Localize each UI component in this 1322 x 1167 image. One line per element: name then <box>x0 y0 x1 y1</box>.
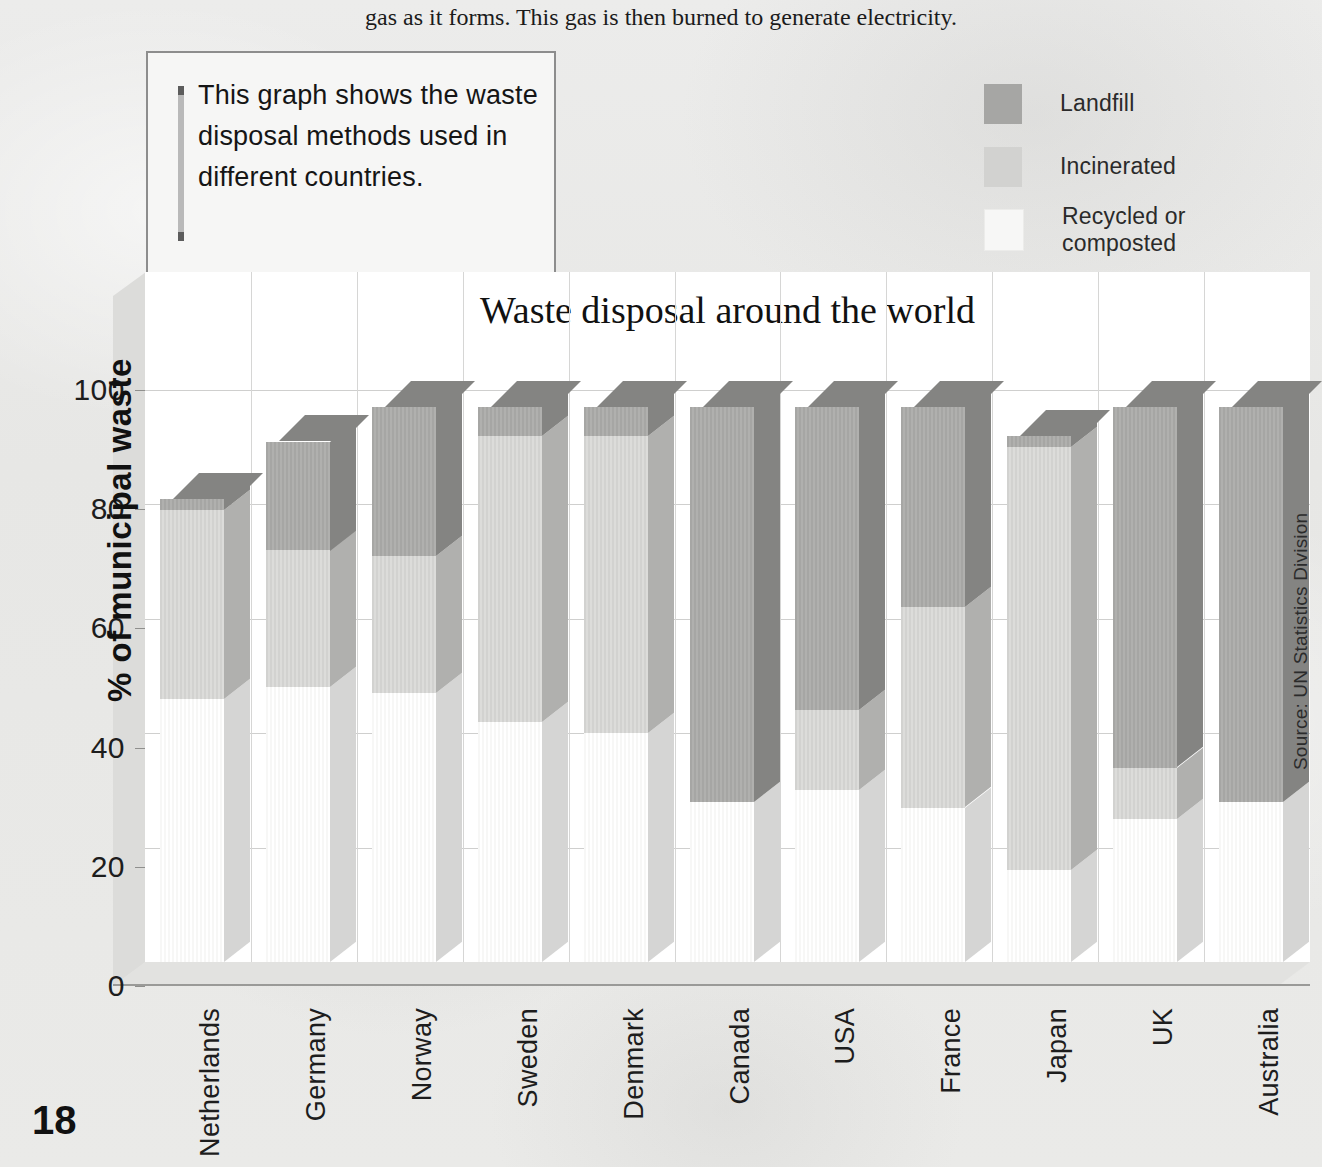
bar-segment-front <box>1113 819 1177 962</box>
bar-column <box>478 381 542 962</box>
x-axis-label: Canada <box>725 1008 756 1104</box>
bar-segment-front <box>478 722 542 962</box>
bar-segment-front <box>795 710 859 790</box>
legend-item-label: Landfill <box>1060 90 1135 117</box>
bar-segment-side <box>436 536 462 694</box>
category-separator <box>675 272 676 962</box>
bar-segment-front <box>901 407 965 607</box>
note-accent-bar <box>178 86 184 241</box>
bar-segment-side <box>965 787 991 962</box>
bar-segment <box>901 607 965 807</box>
callout-note-box: This graph shows the waste disposal meth… <box>146 51 556 276</box>
bar-segment-front <box>266 687 330 962</box>
bar-segment-side <box>648 713 674 962</box>
bar-segment-front <box>1113 768 1177 819</box>
legend-swatch-icon <box>984 209 1024 251</box>
bar-segment-front <box>372 407 436 556</box>
bar-segment-side <box>224 679 250 962</box>
bar-segment <box>690 407 754 802</box>
bar-segment-side <box>1071 427 1097 871</box>
y-axis-tick-label: 0 <box>108 969 125 1003</box>
category-separator <box>886 272 887 962</box>
bar-segment-side <box>648 415 674 733</box>
bar-segment <box>795 710 859 790</box>
legend-swatch-icon <box>984 84 1022 124</box>
bar-segment-front <box>584 733 648 962</box>
bar-segment <box>901 407 965 607</box>
source-note: Source: UN Statistics Division <box>1290 513 1312 770</box>
bar-segment-side <box>542 415 568 721</box>
category-separator <box>357 272 358 962</box>
bar-segment <box>160 699 224 962</box>
bar-segment <box>1007 436 1071 447</box>
category-separator <box>992 272 993 962</box>
bar-segment-front <box>690 407 754 802</box>
bar-segment <box>160 499 224 510</box>
category-separator <box>780 272 781 962</box>
bar-segment-front <box>372 693 436 962</box>
bar-segment-side <box>859 770 885 962</box>
bar-segment <box>266 442 330 551</box>
category-separator <box>1204 272 1205 962</box>
bar-segment <box>795 790 859 962</box>
y-axis-tick <box>135 748 145 749</box>
y-axis-title: % of municipal waste <box>101 358 139 702</box>
bar-segment <box>1219 802 1283 962</box>
x-axis-label: Denmark <box>619 1008 650 1120</box>
legend-item: Landfill <box>984 72 1304 135</box>
bar-segment <box>266 550 330 687</box>
bar-segment <box>795 407 859 710</box>
bar-segment-front <box>901 808 965 962</box>
bar-segment-front <box>160 699 224 962</box>
y-axis-tick <box>135 986 145 987</box>
note-text: This graph shows the waste disposal meth… <box>198 75 540 198</box>
x-axis-label: France <box>936 1008 967 1094</box>
bar-segment <box>1007 447 1071 870</box>
x-axis-label: Norway <box>407 1008 438 1101</box>
bar-segment <box>1113 407 1177 767</box>
legend-item-label: Recycled or composted <box>1062 203 1304 257</box>
bar-segment-front <box>160 510 224 699</box>
chart-legend: LandfillIncineratedRecycled or composted <box>984 72 1304 261</box>
bar-segment-front <box>372 556 436 693</box>
bar-column <box>1113 381 1177 962</box>
bar-column <box>795 381 859 962</box>
bar-segment-side <box>436 387 462 556</box>
bar-column <box>1219 381 1283 962</box>
bar-column <box>372 381 436 962</box>
plot-floor <box>113 962 1310 986</box>
bar-column <box>266 415 330 962</box>
bar-column <box>901 381 965 962</box>
bar-segment-front <box>584 407 648 436</box>
legend-item: Recycled or composted <box>984 198 1304 261</box>
bar-segment <box>266 687 330 962</box>
bar-segment <box>584 436 648 733</box>
legend-item-label: Incinerated <box>1060 153 1176 180</box>
bar-segment-side <box>859 387 885 710</box>
bar-segment <box>584 407 648 436</box>
x-axis-label: Australia <box>1254 1008 1285 1116</box>
bar-segment <box>1219 407 1283 802</box>
bar-segment-front <box>1007 447 1071 870</box>
bar-segment <box>478 436 542 722</box>
bar-segment-front <box>478 436 542 722</box>
bar-segment-side <box>754 782 780 962</box>
x-axis-label: Sweden <box>513 1008 544 1107</box>
category-separator <box>1098 272 1099 962</box>
x-axis-label: USA <box>830 1008 861 1064</box>
bar-segment-front <box>478 407 542 436</box>
legend-swatch-icon <box>984 147 1022 187</box>
bar-segment-side <box>965 387 991 608</box>
category-separator <box>251 272 252 962</box>
bar-segment-front <box>1007 436 1071 447</box>
bar-segment-front <box>266 442 330 551</box>
legend-item: Incinerated <box>984 135 1304 198</box>
plot-face: Waste disposal around the world <box>145 272 1310 962</box>
x-axis-label: Japan <box>1042 1008 1073 1083</box>
bar-segment-front <box>266 550 330 687</box>
y-axis-tick-label: 20 <box>91 850 125 884</box>
bar-segment-side <box>965 587 991 808</box>
bar-segment <box>372 556 436 693</box>
bar-column <box>160 473 224 962</box>
bar-segment-front <box>690 802 754 962</box>
